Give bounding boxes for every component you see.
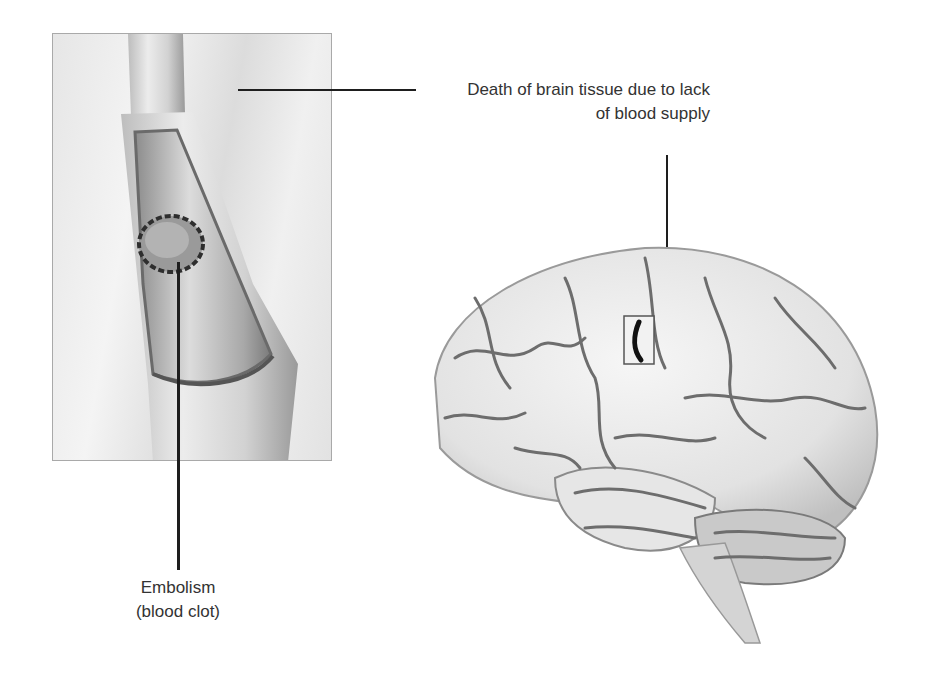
embolism-label-line2: (blood clot)	[108, 600, 248, 624]
infarct-leader-horizontal	[238, 89, 416, 91]
infarct-label-line1: Death of brain tissue due to lack	[420, 78, 710, 102]
embolism-label-line1: Embolism	[108, 576, 248, 600]
embolism-label: Embolism (blood clot)	[108, 576, 248, 624]
brain-lateral-view-image	[415, 238, 895, 648]
infarct-leader-vertical	[666, 155, 668, 250]
vessel-illustration-panel	[52, 33, 332, 461]
infarct-label: Death of brain tissue due to lack of blo…	[420, 78, 710, 126]
vessel-cutaway-image	[53, 34, 332, 461]
infarct-label-line2: of blood supply	[420, 102, 710, 126]
brain-illustration	[415, 238, 895, 648]
embolism-leader-vertical	[177, 262, 180, 570]
